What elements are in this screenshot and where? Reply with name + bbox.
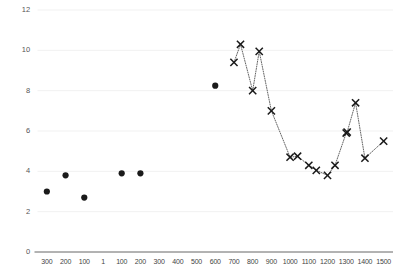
data-point-circle: [44, 188, 50, 194]
data-point-circle: [212, 83, 218, 89]
y-axis-tick-label: 0: [12, 248, 30, 256]
y-axis-tick-label: 2: [12, 208, 30, 216]
y-axis-tick-label: 4: [12, 167, 30, 175]
data-point-x: [352, 99, 359, 106]
y-axis-tick-label: 10: [12, 46, 30, 54]
data-point-circle: [137, 170, 143, 176]
data-point-x: [268, 107, 275, 114]
data-point-x: [256, 48, 263, 55]
x-axis-tick-label: 1500: [372, 258, 396, 266]
data-point-x: [313, 167, 320, 174]
data-point-x: [286, 154, 293, 161]
data-point-x: [230, 59, 237, 66]
data-point-circle: [119, 170, 125, 176]
data-point-x: [324, 172, 331, 179]
data-point-x: [237, 41, 244, 48]
y-axis-tick-label: 6: [12, 127, 30, 135]
data-point-x: [305, 162, 312, 169]
y-axis-tick-label: 8: [12, 87, 30, 95]
chart-plot-area: [0, 0, 400, 276]
data-point-x: [380, 137, 387, 144]
y-axis-tick-label: 12: [12, 6, 30, 14]
data-point-circle: [81, 194, 87, 200]
scatter-chart: 0246810123002001001100200300400500600700…: [0, 0, 400, 276]
data-point-circle: [62, 172, 68, 178]
series-line: [234, 44, 384, 175]
data-point-x: [331, 162, 338, 169]
